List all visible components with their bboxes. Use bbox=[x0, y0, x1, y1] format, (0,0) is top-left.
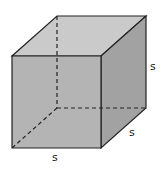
label-width: s bbox=[52, 151, 58, 164]
cube-diagram: s s s bbox=[0, 0, 162, 171]
label-height: s bbox=[150, 60, 156, 73]
label-depth: s bbox=[129, 126, 135, 139]
